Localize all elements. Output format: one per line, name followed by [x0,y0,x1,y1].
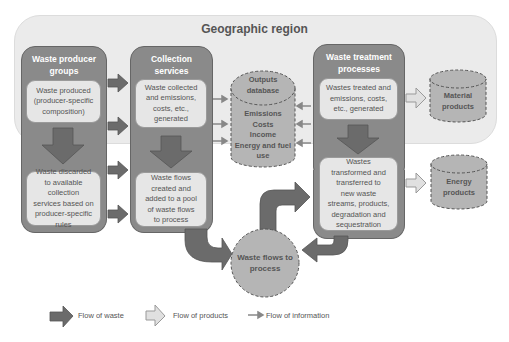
db-item: Emissions [228,109,298,120]
label-line: products [431,188,487,199]
label-line: Material [430,91,486,102]
db-item: Income [228,130,298,141]
product-flow-arrow-icon [406,88,426,193]
legend-information-label: Flow of information [266,311,329,320]
label-line: Waste flows to [231,253,299,264]
energy-products-label: Energy products [431,177,487,198]
db-item: Energy and fuel [228,141,298,152]
db-item: use [228,151,298,162]
waste-pool-label: Waste flows to process [231,253,299,274]
material-products-label: Material products [430,91,486,112]
outputs-database-items: Emissions Costs Income Energy and fuel u… [228,109,298,162]
db-item: Costs [228,120,298,131]
down-arrow-icon [42,125,379,168]
legend-waste-arrow-icon [50,306,73,327]
db-title-line: database [231,86,295,97]
legend-product-arrow-icon [146,305,165,326]
outputs-database-title: Outputs database [231,75,295,96]
label-line: products [430,102,486,113]
legend-products-label: Flow of products [173,311,228,320]
legend-information-arrow-icon [248,312,263,318]
db-title-line: Outputs [231,75,295,86]
waste-flow-arrow-icon [108,74,128,223]
diagram-graphics [0,0,509,342]
label-line: Energy [431,177,487,188]
label-line: process [231,264,299,275]
legend-waste-label: Flow of waste [78,311,124,320]
